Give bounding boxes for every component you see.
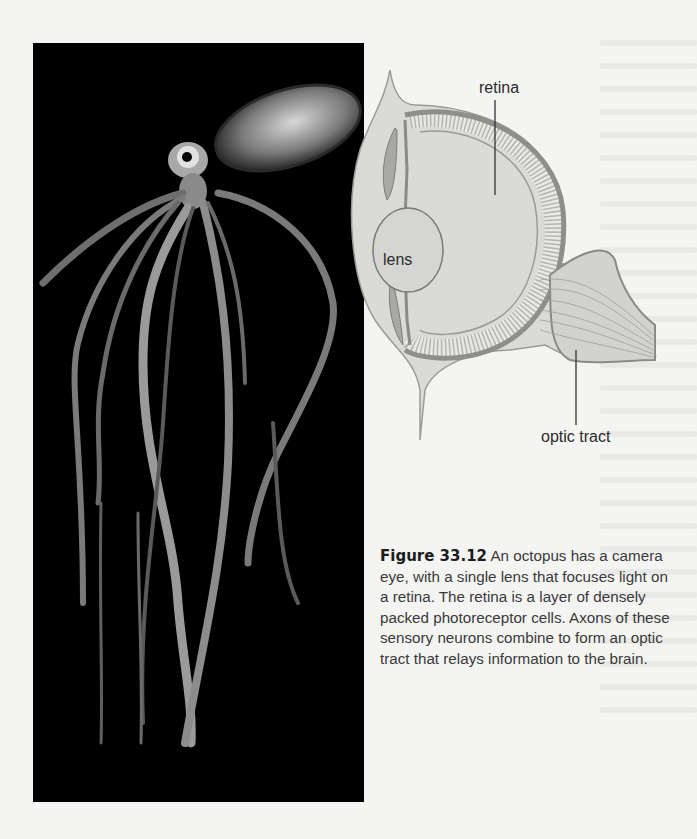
figure-number: Figure 33.12 bbox=[380, 547, 487, 565]
figure-caption: Figure 33.12 An octopus has a camera eye… bbox=[380, 546, 680, 670]
octopus-photo bbox=[33, 43, 364, 802]
optic-tract-label: optic tract bbox=[541, 429, 610, 445]
octopus-illustration bbox=[33, 43, 364, 802]
lens-label: lens bbox=[383, 252, 412, 268]
retina-label: retina bbox=[479, 80, 519, 96]
